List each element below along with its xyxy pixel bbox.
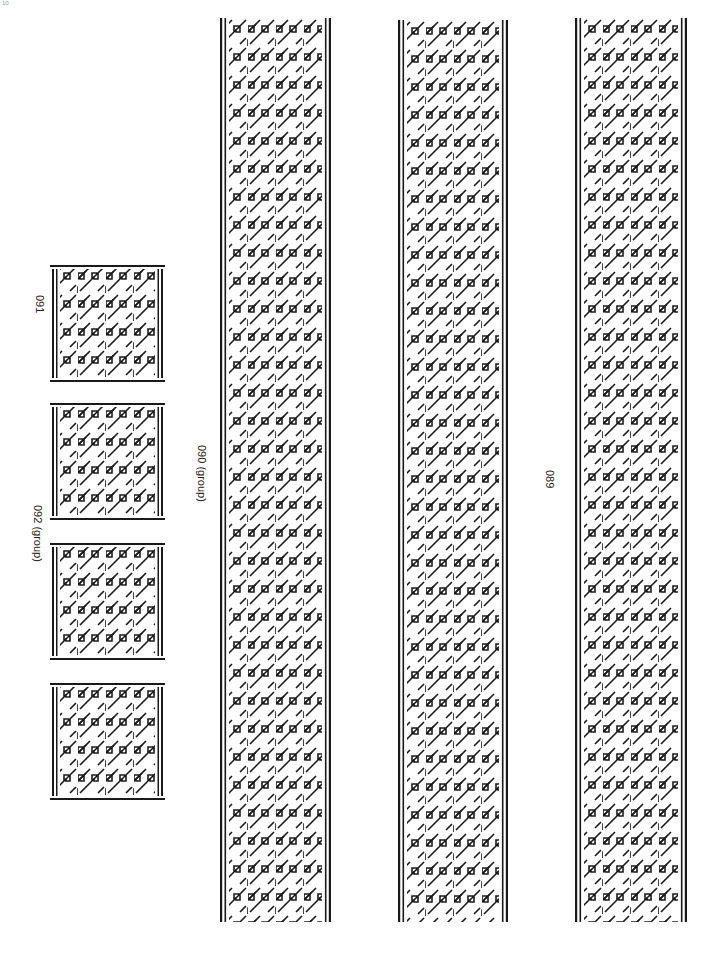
pattern-tile-091 (50, 265, 165, 382)
pattern-strip-middle (398, 20, 508, 922)
label-092-group: 092 (group) (32, 505, 44, 562)
label-091: 091 (34, 295, 46, 313)
pattern-tile-092-b (50, 543, 165, 660)
pattern-strip-090 (220, 18, 331, 922)
label-089: 089 (544, 470, 556, 488)
pattern-strip-089 (575, 18, 687, 922)
pattern-tile-092-a (50, 403, 165, 520)
label-090-group: 090 (group) (196, 445, 208, 502)
pattern-tile-092-c (50, 683, 165, 800)
corner-mark: 10 (2, 0, 9, 6)
